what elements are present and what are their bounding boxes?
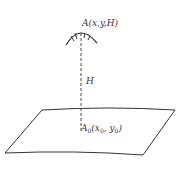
point-a-label: A(x,y,H) (82, 18, 118, 28)
a0-close: ) (118, 123, 122, 133)
a0-sep: , y (104, 123, 115, 133)
height-label: H (86, 76, 94, 86)
a0-open: (x (91, 123, 100, 133)
point-a0-label: A0(x0, y0) (81, 123, 122, 134)
